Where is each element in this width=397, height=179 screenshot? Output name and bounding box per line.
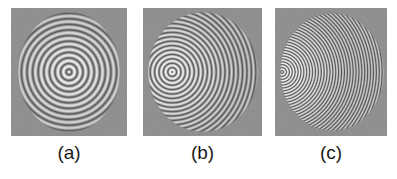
panel-group-b: (b) <box>143 8 262 179</box>
panel-group-c: (c) <box>275 8 387 179</box>
fringe-pattern-a <box>11 8 127 136</box>
fringe-pattern-b <box>143 8 262 136</box>
panel-group-a: (a) <box>11 8 127 179</box>
interferogram-panel-a <box>11 8 127 136</box>
panel-label-a: (a) <box>11 142 127 164</box>
interferogram-panel-b <box>143 8 262 136</box>
interferogram-figure: (a) (b) (c) <box>0 0 397 179</box>
panel-label-b: (b) <box>143 142 262 164</box>
fringe-pattern-c <box>275 8 387 136</box>
interferogram-panel-c <box>275 8 387 136</box>
panel-label-c: (c) <box>275 142 387 164</box>
